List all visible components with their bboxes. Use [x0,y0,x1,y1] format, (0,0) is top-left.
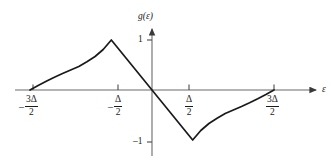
fraction: Δ 2 [114,95,122,118]
fraction-numerator: Δ [185,95,193,107]
fraction-numerator: 3Δ [25,95,38,107]
x-tick-label-3delta-over-2: 3Δ 2 [265,95,279,118]
y-tick-label-1: 1 [138,35,143,45]
x-axis-label: ε [322,85,326,95]
fraction-denominator: 2 [116,107,121,118]
plot-canvas [0,0,334,168]
fraction-numerator: 3Δ [266,95,279,107]
fraction: 3Δ 2 [25,95,38,118]
fraction-numerator: Δ [114,95,122,107]
fraction-denominator: 2 [29,107,34,118]
x-tick-label-delta-over-2: Δ 2 [184,95,193,118]
x-tick-label--delta-over-2: – Δ 2 [108,95,122,118]
figure-panel: g(ε) ε 1 –1 – 3Δ 2 – Δ 2 Δ 2 3Δ 2 [0,0,334,168]
y-axis-label: g(ε) [138,12,153,22]
fraction: 3Δ 2 [266,95,279,118]
x-tick-label--3delta-over-2: – 3Δ 2 [19,95,38,118]
y-tick-label-minus-1: –1 [133,137,143,147]
fraction: Δ 2 [185,95,193,118]
fraction-denominator: 2 [187,107,192,118]
fraction-denominator: 2 [270,107,275,118]
